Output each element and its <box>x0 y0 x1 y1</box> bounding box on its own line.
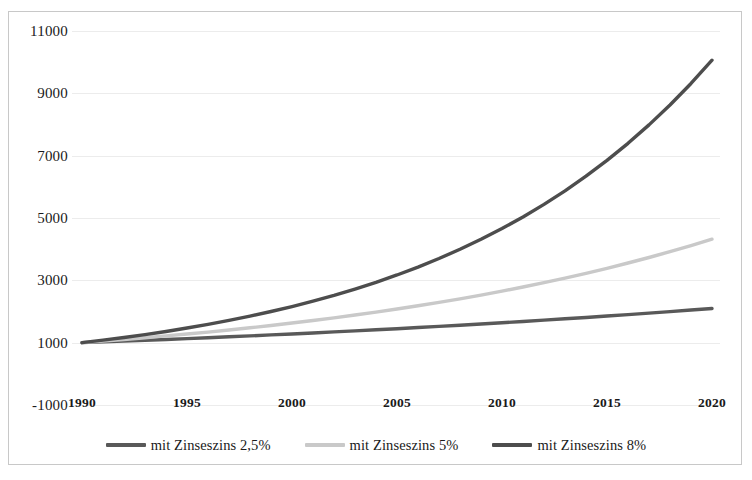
x-axis-tick-label: 1995 <box>152 395 222 411</box>
gridline <box>72 156 720 157</box>
y-axis-tick-label: 3000 <box>0 272 68 289</box>
legend-label: mit Zinseszins 5% <box>350 437 459 454</box>
legend-item[interactable]: mit Zinseszins 2,5% <box>106 437 271 454</box>
y-axis-tick-label: 9000 <box>0 85 68 102</box>
x-axis: 1990199520002005201020152020 <box>0 395 752 417</box>
x-axis-tick-label: 2020 <box>677 395 747 411</box>
gridline <box>72 218 720 219</box>
x-axis-tick-label: 2015 <box>572 395 642 411</box>
legend-swatch-icon <box>106 443 146 447</box>
gridline <box>72 280 720 281</box>
gridline <box>72 93 720 94</box>
y-axis-tick-label: 7000 <box>0 147 68 164</box>
x-axis-tick-label: 2010 <box>467 395 537 411</box>
legend-label: mit Zinseszins 8% <box>537 437 646 454</box>
gridline <box>72 343 720 344</box>
legend-swatch-icon <box>492 443 532 447</box>
legend-item[interactable]: mit Zinseszins 8% <box>492 437 646 454</box>
x-axis-tick-label: 1990 <box>47 395 117 411</box>
legend-item[interactable]: mit Zinseszins 5% <box>305 437 459 454</box>
y-axis-tick-label: 1000 <box>0 334 68 351</box>
chart-legend: mit Zinseszins 2,5%mit Zinseszins 5%mit … <box>0 432 752 458</box>
x-axis-tick-label: 2005 <box>362 395 432 411</box>
legend-label: mit Zinseszins 2,5% <box>151 437 271 454</box>
chart-plot-area: 1100090007000500030001000-1000 199019952… <box>0 0 752 480</box>
x-axis-tick-label: 2000 <box>257 395 327 411</box>
series-line <box>82 239 712 343</box>
series-line <box>82 308 712 342</box>
series-line <box>82 60 712 342</box>
y-axis-tick-label: 5000 <box>0 210 68 227</box>
legend-swatch-icon <box>305 443 345 447</box>
y-axis-tick-label: 11000 <box>0 23 68 40</box>
gridline <box>72 31 720 32</box>
